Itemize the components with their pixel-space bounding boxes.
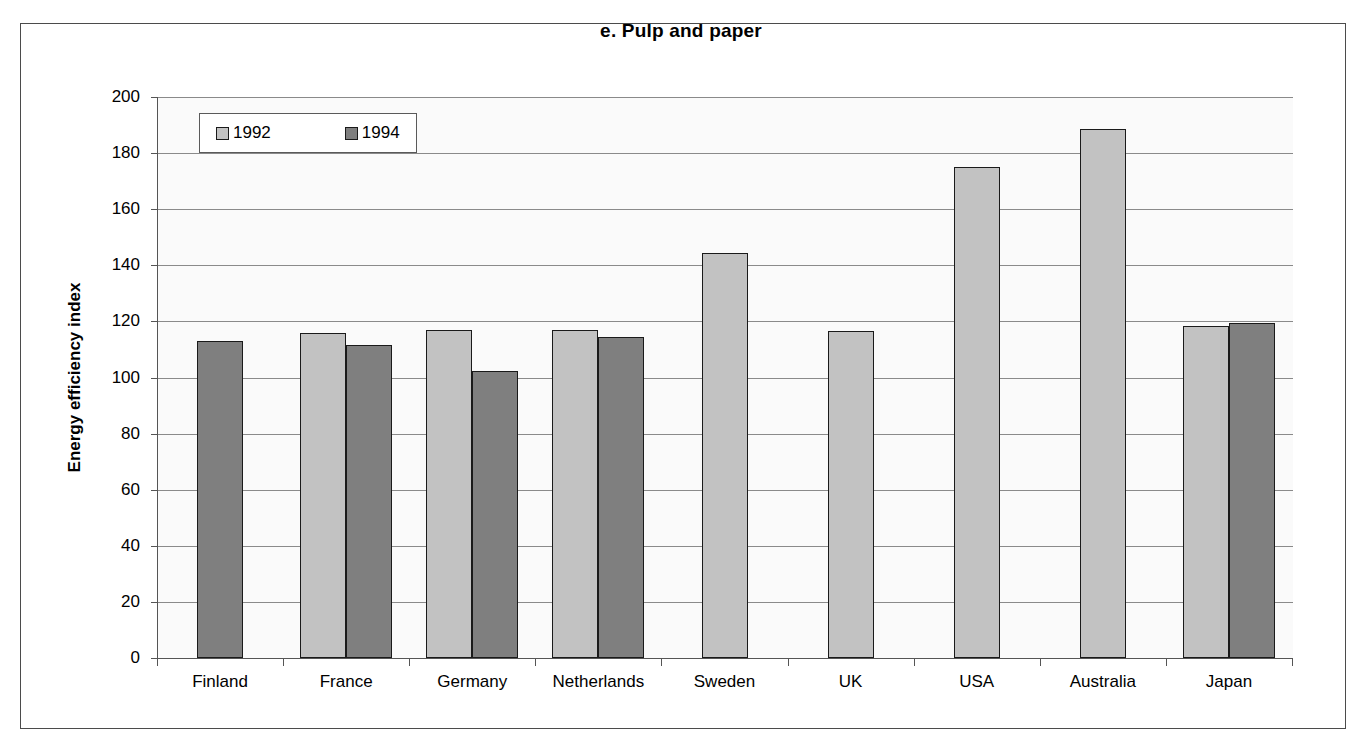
bar-japan-1994 xyxy=(1229,323,1275,658)
bar-netherlands-1994 xyxy=(598,337,644,658)
y-tick-label: 120 xyxy=(80,311,140,331)
x-tick-label-sweden: Sweden xyxy=(694,672,755,692)
x-tick-mark xyxy=(788,658,789,666)
x-tick-label-germany: Germany xyxy=(437,672,507,692)
bar-germany-1992 xyxy=(426,330,472,658)
bar-france-1992 xyxy=(300,333,346,658)
bar-sweden-1992 xyxy=(702,253,748,658)
y-tick-label: 140 xyxy=(80,255,140,275)
legend-swatch-1992-icon xyxy=(216,127,229,140)
y-tick-label: 60 xyxy=(80,480,140,500)
x-tick-mark xyxy=(1166,658,1167,666)
legend-entry-1994: 1994 xyxy=(345,123,400,143)
chart-title: e. Pulp and paper xyxy=(0,20,1362,42)
x-tick-label-japan: Japan xyxy=(1206,672,1252,692)
bar-japan-1992 xyxy=(1183,326,1229,658)
y-tick-label: 200 xyxy=(80,87,140,107)
x-tick-label-australia: Australia xyxy=(1070,672,1136,692)
bars-layer xyxy=(157,97,1292,658)
legend-label: 1994 xyxy=(362,123,400,143)
x-tick-label-france: France xyxy=(320,672,373,692)
y-tick-label: 160 xyxy=(80,199,140,219)
bar-france-1994 xyxy=(346,345,392,658)
legend-label: 1992 xyxy=(233,123,271,143)
bar-germany-1994 xyxy=(472,371,518,659)
x-axis: FinlandFranceGermanyNetherlandsSwedenUKU… xyxy=(157,658,1292,708)
x-tick-mark xyxy=(283,658,284,666)
x-tick-mark xyxy=(914,658,915,666)
bar-australia-1992 xyxy=(1080,129,1126,658)
x-tick-mark xyxy=(157,658,158,666)
legend-entry-1992: 1992 xyxy=(216,123,271,143)
x-tick-mark xyxy=(1040,658,1041,666)
x-tick-label-usa: USA xyxy=(959,672,994,692)
y-tick-label: 180 xyxy=(80,143,140,163)
x-tick-label-netherlands: Netherlands xyxy=(553,672,645,692)
y-tick-label: 20 xyxy=(80,592,140,612)
x-tick-mark xyxy=(535,658,536,666)
bar-finland-1994 xyxy=(197,341,243,658)
x-tick-mark xyxy=(1292,658,1293,666)
y-tick-label: 40 xyxy=(80,536,140,556)
bar-netherlands-1992 xyxy=(552,330,598,658)
x-tick-mark xyxy=(409,658,410,666)
x-tick-mark xyxy=(661,658,662,666)
chart-legend: 19921994 xyxy=(199,113,417,153)
y-tick-label: 0 xyxy=(80,648,140,668)
figure-canvas: e. Pulp and paper Energy efficiency inde… xyxy=(0,0,1362,743)
x-tick-label-finland: Finland xyxy=(192,672,248,692)
x-tick-label-uk: UK xyxy=(839,672,863,692)
bar-uk-1992 xyxy=(828,331,874,658)
legend-swatch-1994-icon xyxy=(345,127,358,140)
y-tick-label: 80 xyxy=(80,424,140,444)
y-tick-label: 100 xyxy=(80,368,140,388)
bar-usa-1992 xyxy=(954,167,1000,658)
